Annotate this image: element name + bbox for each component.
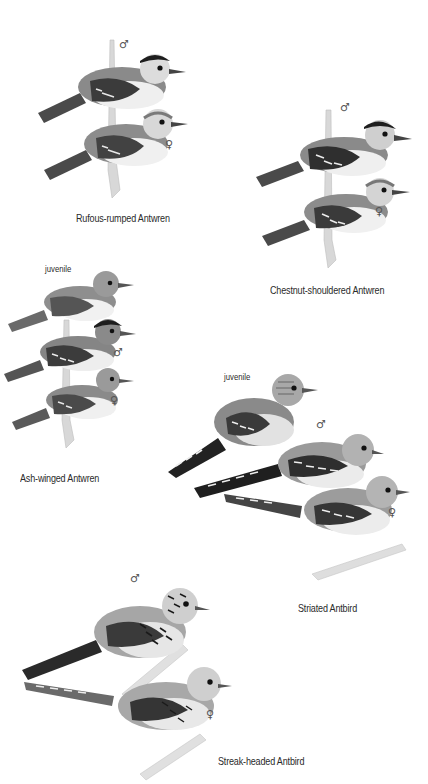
male-symbol: ♂	[340, 101, 350, 114]
species-caption: Chestnut-shouldered Antwren	[270, 284, 384, 296]
species-caption: Rufous-rumped Antwren	[76, 212, 170, 224]
species-caption: Striated Antbird	[298, 602, 357, 614]
male-symbol: ♂	[130, 572, 140, 585]
female-symbol: ♀	[206, 708, 214, 721]
female-symbol: ♀	[165, 138, 173, 151]
female-symbol: ♀	[388, 506, 396, 519]
male-symbol: ♂	[119, 38, 129, 51]
bird-illustration-female	[22, 662, 232, 747]
bird-illustration-male	[20, 580, 210, 675]
male-symbol: ♂	[316, 418, 326, 431]
species-caption: Streak-headed Antbird	[218, 755, 304, 767]
male-symbol: ♂	[113, 346, 123, 359]
female-symbol: ♀	[110, 394, 118, 407]
juvenile-label: juvenile	[45, 264, 71, 274]
bird-illustration-female	[222, 474, 412, 554]
species-caption: Ash-winged Antwren	[20, 472, 99, 484]
female-symbol: ♀	[375, 205, 383, 218]
bird-illustration-female	[260, 172, 410, 242]
juvenile-label: juvenile	[224, 372, 250, 382]
